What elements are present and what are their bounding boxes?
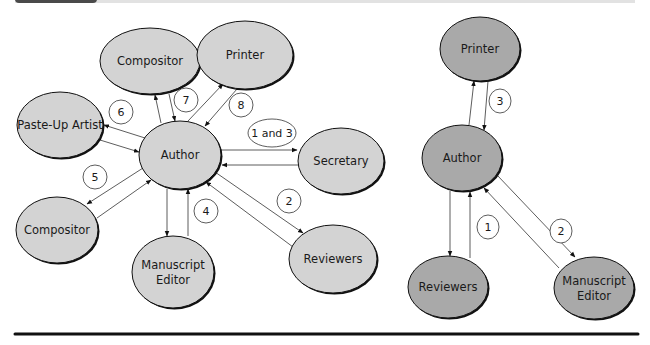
left-node-secretary: Secretary [298,128,386,196]
left-step-8: 8 [229,93,253,117]
step-number: 2 [286,195,293,208]
node-label: Manuscript [562,274,626,288]
node-label: Editor [577,289,611,303]
left-step-2: 2 [277,189,301,213]
left-step-7: 7 [174,88,198,112]
node-label: Paste-Up Artist [17,118,103,132]
step-number: 4 [203,205,210,218]
right-node-manuscript-editor: ManuscriptEditor [554,257,636,321]
right-node-reviewers: Reviewers [408,256,490,320]
left-step-5: 5 [83,165,107,189]
left-node-paste-up-artist: Paste-Up Artist [17,92,105,160]
step-number: 1 [485,221,492,234]
edge-r-printer-to-author [484,81,488,130]
edge-compositor-bottom-to-author [97,180,151,218]
edge-pasteup-to-author [100,140,139,152]
node-label: Manuscript [141,258,205,272]
node-label: Author [161,148,200,162]
edge-r-author-to-printer [469,81,474,125]
step-number: 7 [183,94,190,107]
edge-author-to-pasteup [104,125,145,138]
node-label: Secretary [313,154,369,168]
step-number: 2 [558,225,565,238]
node-label: Author [443,151,482,165]
figure-header [15,0,635,3]
left-node-manuscript-editor: ManuscriptEditor [132,236,216,310]
left-step-1-and-3: 1 and 3 [248,119,296,147]
step-number: 1 and 3 [251,127,293,140]
header-tab [15,0,97,3]
left-node-compositor-bottom: Compositor [16,197,100,265]
step-number: 5 [92,171,99,184]
left-step-6: 6 [109,100,133,124]
left-node-compositor-top: Compositor [100,28,202,96]
edge-reviewers-to-author [206,182,293,247]
node-label: Editor [156,273,190,287]
left-node-reviewers: Reviewers [289,225,379,295]
step-number: 8 [238,99,245,112]
node-label: Reviewers [304,252,363,266]
node-label: Printer [226,48,265,62]
left-node-author: Author [139,121,223,191]
right-node-printer: Printer [440,17,522,83]
left-step-4: 4 [194,199,218,223]
step-number: 6 [118,106,125,119]
right-node-author: Author [422,125,504,193]
right-step-1: 1 [477,215,499,239]
node-label: Reviewers [419,280,478,294]
edge-r-author-to-editor [497,175,575,257]
edge-author-to-compositor [155,95,161,123]
node-label: Compositor [24,223,90,237]
step-number: 3 [497,95,504,108]
node-label: Compositor [117,54,183,68]
left-node-printer: Printer [197,21,295,91]
right-step-2: 2 [550,219,572,243]
right-step-3: 3 [489,89,511,113]
header-bar [15,0,635,3]
workflow-diagram-figure: AuthorCompositorPrinterPaste-Up ArtistSe… [0,0,650,345]
right-diagram-nodes: PrinterAuthorReviewersManuscriptEditor [408,17,636,321]
left-diagram-nodes: AuthorCompositorPrinterPaste-Up ArtistSe… [16,21,386,310]
node-label: Printer [461,42,500,56]
